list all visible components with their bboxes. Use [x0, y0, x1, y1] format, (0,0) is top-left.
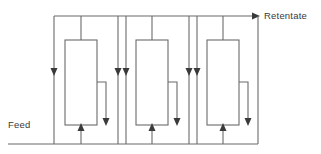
stage-1-permeate-line	[97, 82, 106, 122]
process-flow-diagram: Feed Retentate	[0, 0, 321, 154]
stage-3-permeate-arrow-icon	[245, 118, 252, 126]
stage-2-module-body	[136, 40, 168, 125]
stage-1-module-body	[65, 40, 97, 125]
membrane-stage-2	[123, 16, 193, 144]
stage-1-outlet-arrow-icon	[115, 68, 122, 76]
feed-label: Feed	[8, 119, 30, 130]
stage-1-permeate-arrow-icon	[103, 118, 110, 126]
stage-3-downflow-arrow-icon	[194, 68, 201, 76]
retentate-arrow-icon	[252, 13, 260, 20]
stage-2-permeate-arrow-icon	[174, 118, 181, 126]
stage-2-downflow-arrow-icon	[123, 68, 130, 76]
stage-3-module-body	[207, 40, 239, 125]
stage-1-downflow-arrow-icon	[51, 68, 58, 76]
membrane-stage-3	[194, 16, 259, 144]
retentate-label: Retentate	[264, 10, 307, 21]
membrane-stage-1	[51, 16, 122, 144]
stage-2-permeate-line	[168, 82, 177, 122]
flow-diagram-canvas: Feed Retentate	[0, 0, 321, 154]
stage-3-permeate-line	[239, 82, 248, 122]
retentate-stream	[54, 13, 260, 20]
stage-2-outlet-arrow-icon	[186, 68, 193, 76]
